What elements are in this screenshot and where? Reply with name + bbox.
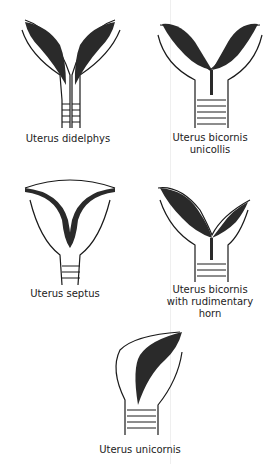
figure-uterus-unicornis: Uterus unicornis xyxy=(70,310,210,464)
figure-uterus-bicornis-unicollis: Uterus bicornis unicollis xyxy=(140,0,280,170)
figure-uterus-septus: Uterus septus xyxy=(0,170,140,310)
figure-uterus-didelphys: Uterus didelphys xyxy=(0,0,140,170)
caption-uterus-unicornis: Uterus unicornis xyxy=(85,444,195,456)
caption-uterus-septus: Uterus septus xyxy=(15,288,115,300)
caption-uterus-didelphys: Uterus didelphys xyxy=(18,133,118,145)
figure-uterus-bicornis-rudimentary-horn: Uterus bicornis with rudimentary horn xyxy=(140,170,280,310)
uterus-unicornis-illustration xyxy=(70,310,210,464)
caption-uterus-bicornis-unicollis: Uterus bicornis unicollis xyxy=(150,132,270,156)
